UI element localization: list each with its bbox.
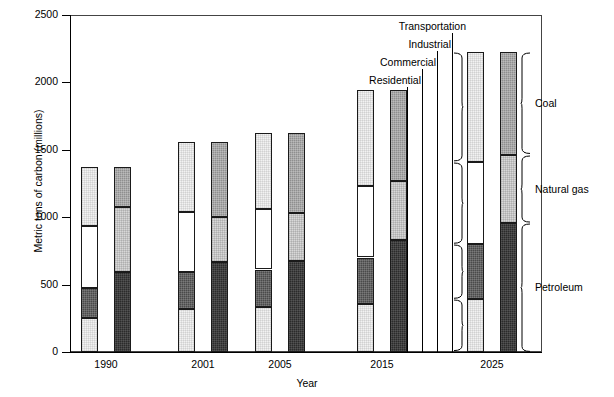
x-tick-label-1990: 1990: [76, 358, 136, 370]
bar-segment-residential[interactable]: [178, 309, 195, 352]
bar-segment-commercial[interactable]: [467, 244, 484, 299]
x-axis-line: [70, 352, 542, 353]
bar-segment-transportation[interactable]: [81, 167, 98, 226]
x-axis-title: Year: [0, 377, 614, 389]
bar-right-2005[interactable]: [288, 15, 305, 352]
bar-segment-coal[interactable]: [288, 133, 305, 213]
bar-segment-coal[interactable]: [211, 142, 228, 217]
bar-segment-transportation[interactable]: [467, 52, 484, 162]
sector-leader-line: [422, 69, 423, 352]
bar-segment-residential[interactable]: [81, 318, 98, 352]
sector-brace-commercial: [454, 244, 463, 299]
sector-leader-line: [407, 87, 408, 352]
bar-segment-residential[interactable]: [357, 304, 374, 352]
bar-segment-industrial[interactable]: [178, 212, 195, 272]
fuel-label-petroleum: Petroleum: [535, 281, 583, 293]
bar-segment-coal[interactable]: [500, 52, 517, 154]
bar-left-2015[interactable]: [357, 15, 374, 352]
bar-segment-industrial[interactable]: [467, 162, 484, 244]
bar-right-2001[interactable]: [211, 15, 228, 352]
fuel-brace-natural-gas: [521, 155, 530, 223]
bar-segment-coal[interactable]: [114, 167, 131, 207]
bar-segment-commercial[interactable]: [178, 272, 195, 309]
bar-segment-petroleum[interactable]: [114, 272, 131, 352]
bar-segment-residential[interactable]: [467, 299, 484, 352]
bar-right-2025[interactable]: [500, 15, 517, 352]
bar-segment-industrial[interactable]: [357, 186, 374, 257]
fuel-label-coal: Coal: [535, 97, 557, 109]
bar-segment-petroleum[interactable]: [211, 262, 228, 352]
sector-label-commercial: Commercial: [380, 56, 436, 68]
bar-segment-transportation[interactable]: [255, 133, 272, 208]
bar-segment-residential[interactable]: [255, 307, 272, 352]
sector-label-transportation: Transportation: [399, 20, 466, 32]
y-tick-mark: [62, 285, 70, 286]
carbon-emissions-chart: 25002000150010005000 Metric tons of carb…: [0, 0, 614, 397]
y-tick-label: 0: [52, 346, 58, 357]
x-tick-label-2005: 2005: [250, 358, 310, 370]
bar-segment-transportation[interactable]: [357, 90, 374, 186]
bar-segment-commercial[interactable]: [357, 258, 374, 305]
fuel-label-natural-gas: Natural gas: [535, 183, 589, 195]
bar-segment-natural-gas[interactable]: [500, 155, 517, 223]
bar-left-2001[interactable]: [178, 15, 195, 352]
bar-segment-coal[interactable]: [390, 90, 407, 181]
bar-segment-industrial[interactable]: [81, 226, 98, 289]
y-tick-label: 2500: [35, 9, 58, 20]
bar-right-1990[interactable]: [114, 15, 131, 352]
bar-segment-natural-gas[interactable]: [288, 213, 305, 261]
bar-segment-commercial[interactable]: [255, 270, 272, 307]
sector-label-residential: Residential: [369, 74, 421, 86]
bar-segment-industrial[interactable]: [255, 209, 272, 270]
sector-brace-residential: [454, 299, 463, 352]
y-tick-label-wrap: 1000: [0, 211, 58, 222]
y-tick-label-wrap: 2000: [0, 76, 58, 87]
y-tick-label-wrap: 1500: [0, 144, 58, 155]
y-tick-mark: [62, 352, 70, 353]
fuel-brace-petroleum: [521, 223, 530, 352]
bar-left-2025[interactable]: [467, 15, 484, 352]
bar-segment-transportation[interactable]: [178, 142, 195, 212]
bar-segment-natural-gas[interactable]: [390, 181, 407, 240]
sector-brace-transportation: [454, 52, 463, 162]
x-tick-label-2025: 2025: [462, 358, 522, 370]
bar-segment-petroleum[interactable]: [390, 240, 407, 352]
y-axis-line: [70, 15, 71, 353]
bar-left-1990[interactable]: [81, 15, 98, 352]
y-tick-mark: [62, 150, 70, 151]
y-tick-label-wrap: 0: [0, 346, 58, 357]
bar-left-2005[interactable]: [255, 15, 272, 352]
sector-label-industrial: Industrial: [408, 38, 451, 50]
bar-segment-natural-gas[interactable]: [114, 207, 131, 272]
sector-leader-line: [437, 51, 438, 352]
y-tick-label-wrap: 500: [0, 279, 58, 290]
y-axis-title: Metric tons of carbon (millions): [32, 81, 44, 281]
y-tick-label-wrap: 2500: [0, 9, 58, 20]
bar-segment-petroleum[interactable]: [500, 223, 517, 352]
bar-segment-natural-gas[interactable]: [211, 217, 228, 262]
y-tick-mark: [62, 217, 70, 218]
y-tick-mark: [62, 82, 70, 83]
x-tick-label-2015: 2015: [352, 358, 412, 370]
y-tick-mark: [62, 15, 70, 16]
sector-brace-industrial: [454, 162, 463, 244]
bar-segment-petroleum[interactable]: [288, 261, 305, 352]
sector-leader-line: [452, 33, 453, 352]
bar-segment-commercial[interactable]: [81, 288, 98, 318]
x-tick-label-2001: 2001: [173, 358, 233, 370]
fuel-brace-coal: [521, 52, 530, 154]
